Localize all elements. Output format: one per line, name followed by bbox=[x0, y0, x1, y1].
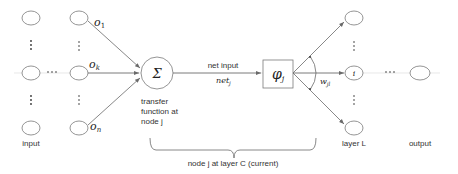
net-input-label: net input bbox=[208, 61, 239, 70]
input-node-middle bbox=[22, 66, 40, 80]
transfer-label-1: transfer bbox=[141, 97, 168, 106]
sigma-icon: Σ bbox=[151, 66, 162, 81]
edge-to-layerL-bottom bbox=[293, 73, 344, 124]
ellipsis-icon bbox=[47, 71, 57, 73]
net-symbol: netj bbox=[216, 76, 231, 87]
input-label: input bbox=[22, 139, 40, 148]
transfer-label-2: function at bbox=[141, 107, 179, 116]
prev-node-ok bbox=[70, 66, 88, 80]
activation-box: φj bbox=[263, 60, 293, 88]
edge-on-to-sum bbox=[88, 78, 140, 125]
edge-o1-to-sum bbox=[88, 21, 140, 68]
transfer-label-3: node j bbox=[141, 117, 163, 126]
output-label: output bbox=[409, 139, 432, 148]
input-node-bottom bbox=[22, 121, 40, 135]
input-layer: input bbox=[22, 11, 40, 148]
output-layer: output bbox=[409, 66, 432, 148]
prev-node-on bbox=[70, 121, 88, 135]
layerL-node-bottom bbox=[345, 121, 363, 135]
neural-network-diagram: input o1 ok on Σ transfer function at no… bbox=[0, 0, 458, 174]
layerL-node-top bbox=[345, 11, 363, 25]
weight-label: wjl bbox=[320, 77, 331, 88]
edge-to-layerL-top bbox=[293, 22, 344, 73]
input-node-top bbox=[22, 11, 40, 25]
node-i-label: i bbox=[353, 69, 356, 78]
layer-l: i layer L bbox=[342, 11, 367, 148]
output-node bbox=[410, 66, 430, 80]
node-j-brace bbox=[150, 138, 316, 158]
brace-caption: node j at layer C (current) bbox=[188, 159, 279, 168]
ok-label: ok bbox=[89, 58, 100, 72]
sum-node: Σ bbox=[141, 57, 173, 89]
prev-node-o1 bbox=[70, 11, 88, 25]
ellipsis-icon bbox=[385, 71, 395, 73]
layer-l-label: layer L bbox=[342, 139, 367, 148]
